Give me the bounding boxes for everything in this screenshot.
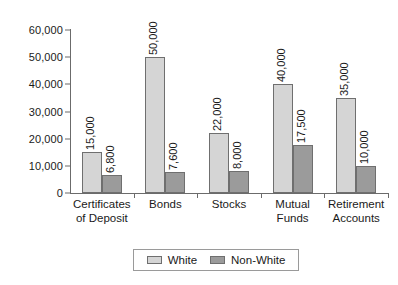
bar-white: 50,000 <box>145 57 165 193</box>
bar-non-white: 7,600 <box>165 172 185 193</box>
x-axis-tick-mark <box>388 193 389 198</box>
bar-group: 15,0006,800 <box>70 30 134 193</box>
bar-value-label: 10,000 <box>359 130 370 164</box>
bar-value-label: 17,500 <box>296 110 307 144</box>
x-axis-line <box>70 193 388 194</box>
bar-value-label: 40,000 <box>276 49 287 83</box>
bar-value-label: 6,800 <box>105 145 116 173</box>
legend-swatch-non-white-icon <box>210 256 225 264</box>
x-axis-category-label: Certificatesof Deposit <box>70 197 134 225</box>
bar-value-label: 7,600 <box>168 143 179 171</box>
legend-item-non-white: Non-White <box>210 254 285 266</box>
bar-group: 35,00010,000 <box>324 30 388 193</box>
legend-label-non-white: Non-White <box>231 254 285 266</box>
bar-non-white: 17,500 <box>293 145 313 193</box>
bar-chart: 010,00020,00030,00040,00050,00060,00015,… <box>0 0 398 285</box>
bar-white: 35,000 <box>336 98 356 193</box>
bar-group: 22,0008,000 <box>197 30 261 193</box>
bar-white: 15,000 <box>82 152 102 193</box>
legend-label-white: White <box>168 254 197 266</box>
x-axis-category-label: MutualFunds <box>261 197 325 225</box>
bar-group: 40,00017,500 <box>261 30 325 193</box>
bar-group: 50,0007,600 <box>134 30 198 193</box>
y-axis-tick-label: 40,000 <box>29 78 70 90</box>
legend-item-white: White <box>147 254 197 266</box>
x-axis-category-labels: Certificatesof DepositBondsStocksMutualF… <box>70 197 388 233</box>
x-axis-category-label: RetirementAccounts <box>324 197 388 225</box>
chart-legend: White Non-White <box>133 249 299 271</box>
bar-white: 22,000 <box>209 133 229 193</box>
plot-area: 010,00020,00030,00040,00050,00060,00015,… <box>70 30 388 193</box>
bar-value-label: 50,000 <box>148 22 159 56</box>
y-axis-tick-label: 20,000 <box>29 133 70 145</box>
bar-value-label: 35,000 <box>339 62 350 96</box>
legend-swatch-white-icon <box>147 256 162 264</box>
bar-value-label: 15,000 <box>85 117 96 151</box>
bar-non-white: 10,000 <box>356 166 376 193</box>
bar-value-label: 22,000 <box>212 98 223 132</box>
y-axis-tick-label: 50,000 <box>29 51 70 63</box>
bar-non-white: 6,800 <box>102 175 122 193</box>
x-axis-category-label: Bonds <box>134 197 198 211</box>
y-axis-tick-label: 60,000 <box>29 24 70 36</box>
y-axis-tick-label: 30,000 <box>29 106 70 118</box>
y-axis-tick-label: 10,000 <box>29 160 70 172</box>
bar-white: 40,000 <box>273 84 293 193</box>
bar-non-white: 8,000 <box>229 171 249 193</box>
x-axis-category-label: Stocks <box>197 197 261 211</box>
bar-value-label: 8,000 <box>232 142 243 170</box>
